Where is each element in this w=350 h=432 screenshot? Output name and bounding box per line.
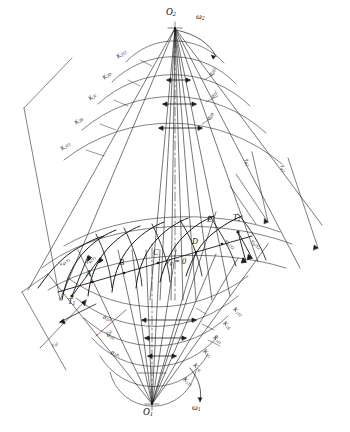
upper-radial-rays xyxy=(150,28,230,300)
label-o1: O1 xyxy=(143,408,153,418)
label-point-d: D xyxy=(192,238,198,246)
label-point-a: A xyxy=(86,270,91,278)
label-t1: T1 xyxy=(68,298,75,307)
label-point-b: B xyxy=(119,259,124,267)
diagram-canvas: O2 ω2 K2T2 K2D K2C K2B K2T1 α2D α2C α2B … xyxy=(0,0,350,432)
label-alpha1b: α1B xyxy=(110,349,119,358)
lower-angle-arrows xyxy=(60,304,196,358)
diagram-vector-layer xyxy=(0,0,350,432)
label-o2: O2 xyxy=(166,8,176,18)
label-vg-zero: vg = 0 xyxy=(166,258,186,267)
label-point-c: C xyxy=(153,249,158,257)
label-leader-lines xyxy=(86,60,220,346)
label-t2: T2 xyxy=(233,214,240,223)
right-dimension-lines xyxy=(230,152,318,250)
label-omega1: ω1 xyxy=(192,404,201,413)
label-omega2: ω2 xyxy=(196,13,205,22)
omega2-arrow xyxy=(176,30,216,59)
label-point-e: E xyxy=(207,216,212,224)
